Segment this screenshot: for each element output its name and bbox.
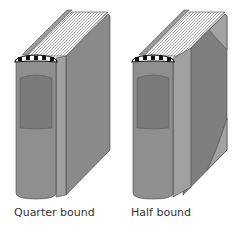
half-bound-book-icon bbox=[117, 0, 235, 205]
caption-half-bound: Half bound bbox=[131, 206, 191, 219]
half-bound-book-illustration: Half bound bbox=[117, 0, 235, 205]
caption-quarter-bound: Quarter bound bbox=[14, 206, 95, 219]
quarter-bound-book-illustration: Quarter bound bbox=[0, 0, 117, 205]
quarter-bound-book-icon bbox=[0, 0, 117, 205]
